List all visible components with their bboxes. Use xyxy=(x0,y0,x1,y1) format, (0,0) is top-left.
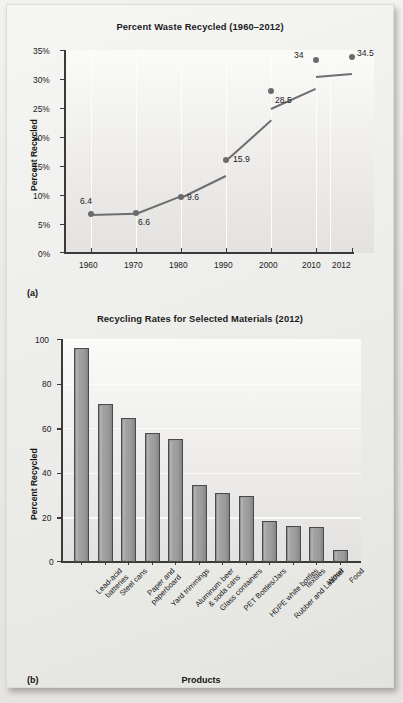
chart-a-ytick-mark-20 xyxy=(60,137,65,138)
chart-a-ytick-mark-15 xyxy=(60,166,65,167)
figure-sheet: Percent Waste Recycled (1960–2012) Perce… xyxy=(6,4,394,688)
chart-a-point-1980 xyxy=(178,194,184,200)
chart-b-ytick-mark-20 xyxy=(57,517,62,518)
chart-b-ytick-60: 60 xyxy=(42,424,51,434)
chart-a-title: Percent Waste Recycled (1960–2012) xyxy=(7,21,393,32)
chart-a-ytick-5: 5% xyxy=(38,220,50,230)
chart-a-xtick-mark-1970 xyxy=(136,248,137,253)
chart-b-xtick-mark-1 xyxy=(81,561,82,565)
bar-highlight xyxy=(217,495,219,560)
chart-b-category-12: Food xyxy=(348,567,366,585)
bar-highlight xyxy=(241,498,243,560)
chart-b-xlabel: Products xyxy=(7,675,395,685)
chart-b-xtick-mark-6 xyxy=(199,561,200,565)
bar-lead-acid-batteries xyxy=(74,348,89,562)
chart-a-point-2012 xyxy=(349,54,355,60)
panel-b-label: (b) xyxy=(27,675,39,685)
chart-a-xtick-2000: 2000 xyxy=(259,260,278,270)
chart-b-xtick-mark-3 xyxy=(128,561,129,565)
chart-b-plot-area xyxy=(61,339,361,562)
chart-a-value-2012: 34.5 xyxy=(357,48,374,58)
chart-a-value-1980: 9.6 xyxy=(187,192,199,202)
figure-page: Percent Waste Recycled (1960–2012) Perce… xyxy=(0,0,403,703)
bar-yard-trimmings xyxy=(145,433,160,562)
chart-b-ytick-mark-60 xyxy=(57,428,62,429)
bar-highlight xyxy=(311,529,313,560)
bar-paper-and-paperboard xyxy=(121,418,136,562)
chart-a-ytick-mark-35 xyxy=(60,50,65,51)
chart-a-gridline-1980 xyxy=(181,50,182,253)
chart-a-ytick-0: 0% xyxy=(38,249,50,259)
panel-a-label: (a) xyxy=(27,288,38,298)
chart-b-ytick-100: 100 xyxy=(35,335,49,345)
bar-hdpe-white-bottles xyxy=(239,496,254,562)
bar-highlight xyxy=(147,435,149,560)
chart-b-ytick-mark-40 xyxy=(57,473,62,474)
chart-a-ytick-10: 10% xyxy=(33,191,50,201)
bar-highlight xyxy=(288,528,290,560)
chart-b-xtick-mark-2 xyxy=(105,561,106,565)
chart-a-ytick-25: 25% xyxy=(33,104,50,114)
chart-b-xtick-mark-11 xyxy=(316,561,317,565)
bar-glass-containers xyxy=(192,485,207,562)
bar-highlight xyxy=(335,552,337,560)
chart-a-xtick-mark-1980 xyxy=(181,248,182,253)
chart-b-xtick-mark-4 xyxy=(152,561,153,565)
chart-a-ytick-mark-0 xyxy=(60,252,65,253)
chart-a-ytick-mark-5 xyxy=(60,224,65,225)
chart-a-point-2000 xyxy=(268,88,274,94)
chart-a-xtick-mark-2012 xyxy=(352,248,353,253)
chart-a-gridline-1960 xyxy=(91,50,92,253)
chart-a-gridline-2010 xyxy=(316,50,317,253)
chart-b-y-axis xyxy=(61,339,63,563)
chart-a-xtick-mark-1960 xyxy=(91,248,92,253)
chart-b-ytick-20: 20 xyxy=(42,513,51,523)
chart-b-xtick-mark-7 xyxy=(222,561,223,565)
chart-a-x-axis xyxy=(64,252,354,254)
chart-b-ytick-0: 0 xyxy=(49,557,54,567)
chart-a-xtick-mark-2010 xyxy=(316,248,317,253)
bar-steel-cans xyxy=(98,404,113,562)
chart-b-xtick-mark-8 xyxy=(246,561,247,565)
chart-a-xtick-mark-1990 xyxy=(226,248,227,253)
chart-a-gridline-2012 xyxy=(330,50,331,253)
chart-b-ytick-80: 80 xyxy=(42,379,51,389)
chart-a-ytick-15: 15% xyxy=(33,162,50,172)
bar-highlight xyxy=(123,420,125,560)
chart-b-xtick-mark-5 xyxy=(175,561,176,565)
chart-a-xtick-1960: 1960 xyxy=(79,260,98,270)
chart-a-value-2010: 34 xyxy=(294,50,304,60)
chart-a-value-1970: 6.6 xyxy=(138,217,150,227)
chart-b-ytick-mark-80 xyxy=(57,384,62,385)
chart-a-ylabel: Percent Recycled xyxy=(29,119,39,191)
chart-a-value-2000: 28.5 xyxy=(275,95,292,105)
bar-highlight xyxy=(170,441,172,560)
chart-a-xtick-2010: 2010 xyxy=(302,260,321,270)
chart-a-ytick-20: 20% xyxy=(33,133,50,143)
bar-pet-bottles-jars xyxy=(215,493,230,562)
chart-b-xtick-mark-9 xyxy=(269,561,270,565)
bar-highlight xyxy=(100,406,102,560)
bar-highlight xyxy=(194,487,196,560)
chart-a-value-1960: 6.4 xyxy=(80,196,92,206)
chart-a-plot-background xyxy=(64,50,374,253)
chart-a-ytick-35: 35% xyxy=(33,46,50,56)
chart-a-xtick-mark-2000 xyxy=(271,248,272,253)
chart-a-ytick-30: 30% xyxy=(33,75,50,85)
chart-b-xtick-mark-12 xyxy=(340,561,341,565)
chart-b-ylabel: Percent Recycled xyxy=(29,448,39,520)
bar-aluminum-beer-and-soda-cans xyxy=(168,439,183,562)
chart-a-xtick-1980: 1980 xyxy=(169,260,188,270)
chart-a-xtick-1970: 1970 xyxy=(124,260,143,270)
chart-b-ytick-mark-100 xyxy=(57,339,62,340)
chart-b-ytick-40: 40 xyxy=(42,468,51,478)
chart-a-xtick-2012: 2012 xyxy=(332,260,351,270)
chart-a-xtick-1990: 1990 xyxy=(214,260,233,270)
bar-highlight xyxy=(264,523,266,560)
chart-b-gridline-80 xyxy=(61,384,361,385)
chart-a-ytick-mark-25 xyxy=(60,108,65,109)
chart-a-ytick-mark-10 xyxy=(60,195,65,196)
bar-wood xyxy=(309,527,324,562)
bar-rubber-and-leather xyxy=(262,521,277,562)
chart-a-value-1990: 15.9 xyxy=(233,154,250,164)
